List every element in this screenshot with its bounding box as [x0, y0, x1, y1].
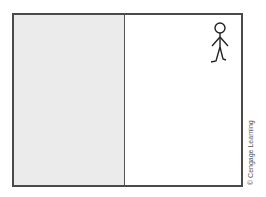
- stick-figure-left-arm: [212, 37, 220, 46]
- center-divider-line: [124, 15, 125, 185]
- copyright-credit: © Cengage Learning: [247, 120, 254, 185]
- stick-figure-right-arm: [220, 37, 228, 46]
- stick-figure-left-leg: [211, 47, 220, 62]
- shaded-left-region: [14, 15, 124, 185]
- stick-figure-head: [215, 23, 225, 33]
- stick-figure-right-leg: [220, 47, 226, 60]
- stick-figure-icon: [208, 22, 232, 68]
